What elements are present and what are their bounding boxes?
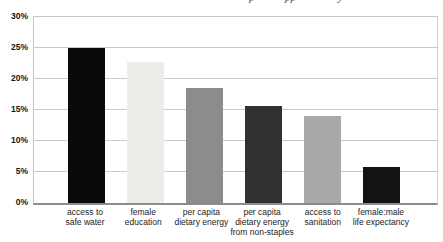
bar-access-to-sanitation	[304, 116, 341, 203]
clipped-caption-glyph: p	[249, 0, 255, 3]
x-category-label: access tosanitation	[294, 207, 352, 237]
x-category-label: per capitadietary energyfrom non-staples	[230, 207, 293, 237]
x-category-label: access tosafe water	[56, 207, 114, 237]
bar-per-capita-dietary-energy-from-non-staples	[245, 106, 282, 203]
bar-column	[352, 17, 411, 203]
y-tick-label: 10%	[11, 135, 28, 145]
bar-column	[234, 17, 293, 203]
plot-area	[33, 16, 438, 205]
y-tick-label: 0%	[16, 197, 28, 207]
bar-column	[175, 17, 234, 203]
bar-column	[57, 17, 116, 203]
bar-column	[293, 17, 352, 203]
bar-column	[116, 17, 175, 203]
bar-female-male-life-expectancy	[363, 167, 400, 203]
y-tick-label: 20%	[11, 73, 28, 83]
clipped-caption-text: pppy	[0, 0, 443, 6]
x-category-label: female:malelife expectancy	[352, 207, 410, 237]
clipped-caption-glyph: pp	[285, 0, 296, 3]
y-tick-label: 30%	[11, 11, 28, 21]
y-tick-label: 25%	[11, 42, 28, 52]
x-category-label: femaleeducation	[114, 207, 172, 237]
y-axis-tick-labels: 0%5%10%15%20%25%30%	[0, 16, 28, 202]
y-tick-label: 15%	[11, 104, 28, 114]
bars-row	[57, 17, 411, 203]
x-category-label: per capitadietary energy	[172, 207, 230, 237]
bar-access-to-safe-water	[68, 48, 105, 203]
clipped-caption-glyph: y	[338, 0, 343, 3]
bar-per-capita-dietary-energy	[186, 88, 223, 203]
x-axis-category-labels: access tosafe waterfemaleeducationper ca…	[56, 207, 410, 237]
bar-female-education	[127, 62, 164, 203]
bar-chart-figure: pppy 0%5%10%15%20%25%30% access tosafe w…	[0, 0, 443, 242]
y-tick-label: 5%	[16, 166, 28, 176]
